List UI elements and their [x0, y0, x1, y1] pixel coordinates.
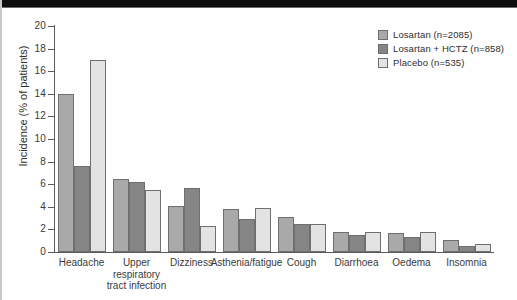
y-tick-label: 0 [6, 246, 46, 257]
bar [294, 224, 310, 252]
bar [113, 179, 129, 252]
bar [239, 219, 255, 252]
legend-swatch-losartan-hctz [378, 44, 388, 54]
bar [90, 60, 106, 252]
bar [223, 209, 239, 252]
bar [200, 226, 216, 252]
legend-item: Placebo (n=535) [378, 56, 504, 69]
legend-label: Losartan + HCTZ (n=858) [393, 43, 504, 54]
bar [74, 166, 90, 252]
bar [145, 190, 161, 252]
x-axis-line [54, 252, 494, 253]
y-axis-title: Incidence (% of patients) [17, 6, 29, 206]
bar [129, 182, 145, 252]
bar [184, 188, 200, 252]
y-tick-label: 2 [6, 223, 46, 234]
y-tick-mark [48, 252, 54, 253]
scan-artifact-band-edge [2, 7, 517, 8]
bar-group [164, 26, 219, 252]
bar-group [274, 26, 329, 252]
bar [443, 240, 459, 252]
bar-group [54, 26, 109, 252]
bar [349, 235, 365, 252]
legend-item: Losartan (n=2085) [378, 28, 504, 41]
legend-swatch-placebo [378, 58, 388, 68]
bar [404, 237, 420, 252]
legend-item: Losartan + HCTZ (n=858) [378, 42, 504, 55]
chart-legend: Losartan (n=2085)Losartan + HCTZ (n=858)… [378, 28, 504, 70]
bar [459, 246, 475, 252]
bar [255, 208, 271, 252]
bar [475, 244, 491, 252]
bar [278, 217, 294, 252]
bar-group [109, 26, 164, 252]
legend-label: Losartan (n=2085) [393, 29, 473, 40]
bar-group [219, 26, 274, 252]
x-category-label: Insomnia [429, 257, 504, 269]
legend-swatch-losartan [378, 30, 388, 40]
bar [168, 206, 184, 252]
bar [333, 232, 349, 252]
legend-label: Placebo (n=535) [393, 57, 464, 68]
scan-artifact-band [2, 0, 517, 7]
bar [58, 94, 74, 252]
bar [310, 224, 326, 252]
bar [420, 232, 436, 252]
bar-group [329, 26, 384, 252]
bar [365, 232, 381, 252]
bar [388, 233, 404, 252]
